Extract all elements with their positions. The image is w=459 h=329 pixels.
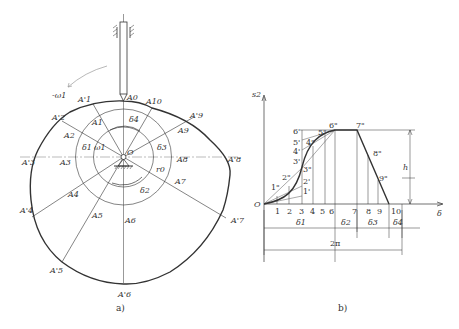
delta3-label: δ3 bbox=[157, 143, 167, 152]
label-A4: A4 bbox=[67, 190, 79, 199]
svg-text:10: 10 bbox=[391, 207, 401, 216]
svg-text:8": 8" bbox=[373, 149, 382, 158]
displacement-curve bbox=[264, 130, 389, 204]
delta4-label: δ4 bbox=[129, 115, 139, 124]
label-A9: A9 bbox=[177, 126, 189, 135]
svg-text:5": 5" bbox=[318, 128, 327, 137]
svg-text:4": 4" bbox=[306, 138, 315, 147]
svg-text:2: 2 bbox=[287, 207, 292, 216]
svg-text:5: 5 bbox=[320, 207, 325, 216]
label-A6: A6 bbox=[124, 216, 136, 225]
svg-text:δ1: δ1 bbox=[296, 218, 306, 227]
svg-text:3: 3 bbox=[299, 207, 304, 216]
label-A0: A0 bbox=[126, 93, 138, 102]
svg-text:δ4: δ4 bbox=[393, 218, 403, 227]
cam-diagram: A'1 A'2 A'3 A'4 A'5 A'6 A'7 A'8 A'9 A0 A… bbox=[0, 0, 459, 329]
svg-text:6": 6" bbox=[329, 121, 338, 130]
svg-text:8: 8 bbox=[366, 207, 371, 216]
svg-text:4': 4' bbox=[293, 147, 300, 156]
label-A3p: A'3 bbox=[21, 158, 35, 167]
caption-b: b) bbox=[338, 303, 347, 313]
rotation-arrow bbox=[68, 66, 107, 87]
h-label: h bbox=[403, 163, 408, 172]
svg-text:9: 9 bbox=[377, 207, 382, 216]
svg-text:7: 7 bbox=[352, 207, 357, 216]
svg-text:2': 2' bbox=[303, 177, 310, 186]
cam-profile bbox=[30, 101, 230, 284]
delta2-label: δ2 bbox=[140, 186, 150, 195]
omega-inner-label: ω1 bbox=[94, 143, 106, 152]
svg-text:7": 7" bbox=[356, 121, 365, 130]
svg-text:9": 9" bbox=[379, 174, 388, 183]
chart-labels: s2 δ O h 1 2 3 4 5 6 7 8 9 10 1' 2' 3' 4… bbox=[252, 90, 442, 313]
follower-rod bbox=[120, 22, 127, 94]
label-A2: A2 bbox=[63, 131, 75, 140]
svg-text:3': 3' bbox=[293, 157, 300, 166]
r0-label: r0 bbox=[156, 165, 165, 174]
follower-tip bbox=[120, 94, 127, 101]
svg-text:5': 5' bbox=[293, 138, 300, 147]
label-A3: A3 bbox=[59, 158, 71, 167]
svg-text:3": 3" bbox=[303, 165, 312, 174]
label-A2p: A'2 bbox=[51, 113, 65, 122]
label-A1: A1 bbox=[91, 118, 103, 127]
label-A7: A7 bbox=[174, 177, 187, 186]
label-A8: A8 bbox=[176, 155, 188, 164]
label-A7p: A'7 bbox=[230, 216, 245, 225]
svg-text:δ3: δ3 bbox=[368, 218, 378, 227]
svg-text:1": 1" bbox=[271, 183, 280, 192]
origin-label: O bbox=[254, 200, 261, 209]
y-axis-label: s2 bbox=[252, 90, 261, 99]
label-A5: A5 bbox=[91, 211, 103, 220]
label-A4p: A'4 bbox=[19, 206, 33, 215]
label-A1p: A'1 bbox=[77, 95, 91, 104]
svg-text:2π: 2π bbox=[330, 239, 340, 248]
label-A6p: A'6 bbox=[117, 290, 131, 299]
omega-outer-label: -ω1 bbox=[52, 91, 66, 100]
label-A8p: A'8 bbox=[227, 155, 241, 164]
svg-text:1': 1' bbox=[303, 187, 310, 196]
label-A10: A10 bbox=[145, 97, 162, 106]
x-axis-label: δ bbox=[437, 209, 442, 218]
label-A9p: A'9 bbox=[189, 111, 203, 120]
svg-text:4: 4 bbox=[310, 207, 315, 216]
delta1-label: δ1 bbox=[82, 143, 92, 152]
svg-text:6: 6 bbox=[329, 207, 334, 216]
caption-a: a) bbox=[116, 303, 125, 313]
label-A5p: A'5 bbox=[49, 266, 63, 275]
svg-text:2": 2" bbox=[282, 173, 291, 182]
center-label: O bbox=[127, 148, 134, 157]
cam-labels: A'1 A'2 A'3 A'4 A'5 A'6 A'7 A'8 A'9 A0 A… bbox=[19, 91, 245, 313]
svg-text:δ2: δ2 bbox=[341, 218, 351, 227]
svg-text:1: 1 bbox=[275, 207, 280, 216]
guide-bearing bbox=[113, 25, 134, 38]
svg-text:6': 6' bbox=[293, 127, 300, 136]
